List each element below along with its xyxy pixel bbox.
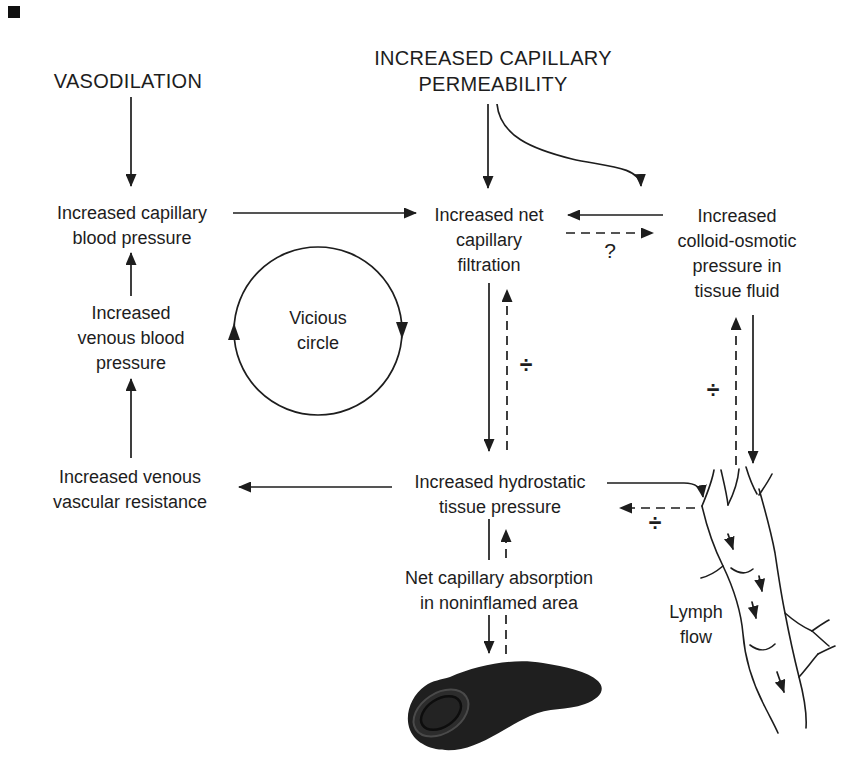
question-mark-symbol: ? — [604, 240, 616, 261]
node-increased-colloid-osmotic-pressure: Increased colloid-osmotic pressure in ti… — [677, 204, 796, 304]
node-increased-venous-blood-pressure: Increased venous blood pressure — [77, 301, 184, 376]
divide-symbol-right: ÷ — [707, 380, 720, 401]
arrow-permeability-to-colloid-curved — [497, 104, 641, 186]
divide-symbol-lymph: ÷ — [649, 513, 662, 534]
node-increased-venous-vascular-resistance: Increased venous vascular resistance — [53, 465, 207, 515]
vicious-circle-arrow-down — [396, 322, 408, 339]
divide-symbol-center: ÷ — [520, 355, 533, 376]
node-increased-hydrostatic-tissue-pressure: Increased hydrostatic tissue pressure — [414, 470, 585, 520]
node-increased-net-capillary-filtration: Increased net capillary filtration — [434, 203, 543, 278]
edema-illustration — [405, 661, 602, 750]
label-lymph-flow: Lymph flow — [669, 600, 722, 650]
node-increased-capillary-blood-pressure: Increased capillary blood pressure — [57, 201, 207, 251]
node-vasodilation: VASODILATION — [54, 68, 202, 94]
arrow-hydrostatic-to-lymph — [607, 483, 703, 497]
scan-artifact-square — [8, 6, 20, 18]
node-increased-capillary-permeability: INCREASED CAPILLARY PERMEABILITY — [374, 45, 612, 97]
node-net-capillary-absorption: Net capillary absorption in noninflamed … — [405, 566, 593, 616]
vicious-circle-arrow-up — [228, 323, 240, 340]
label-vicious-circle: Vicious circle — [289, 306, 347, 356]
edema-vicious-circle-diagram: VASODILATION INCREASED CAPILLARY PERMEAB… — [0, 0, 841, 775]
